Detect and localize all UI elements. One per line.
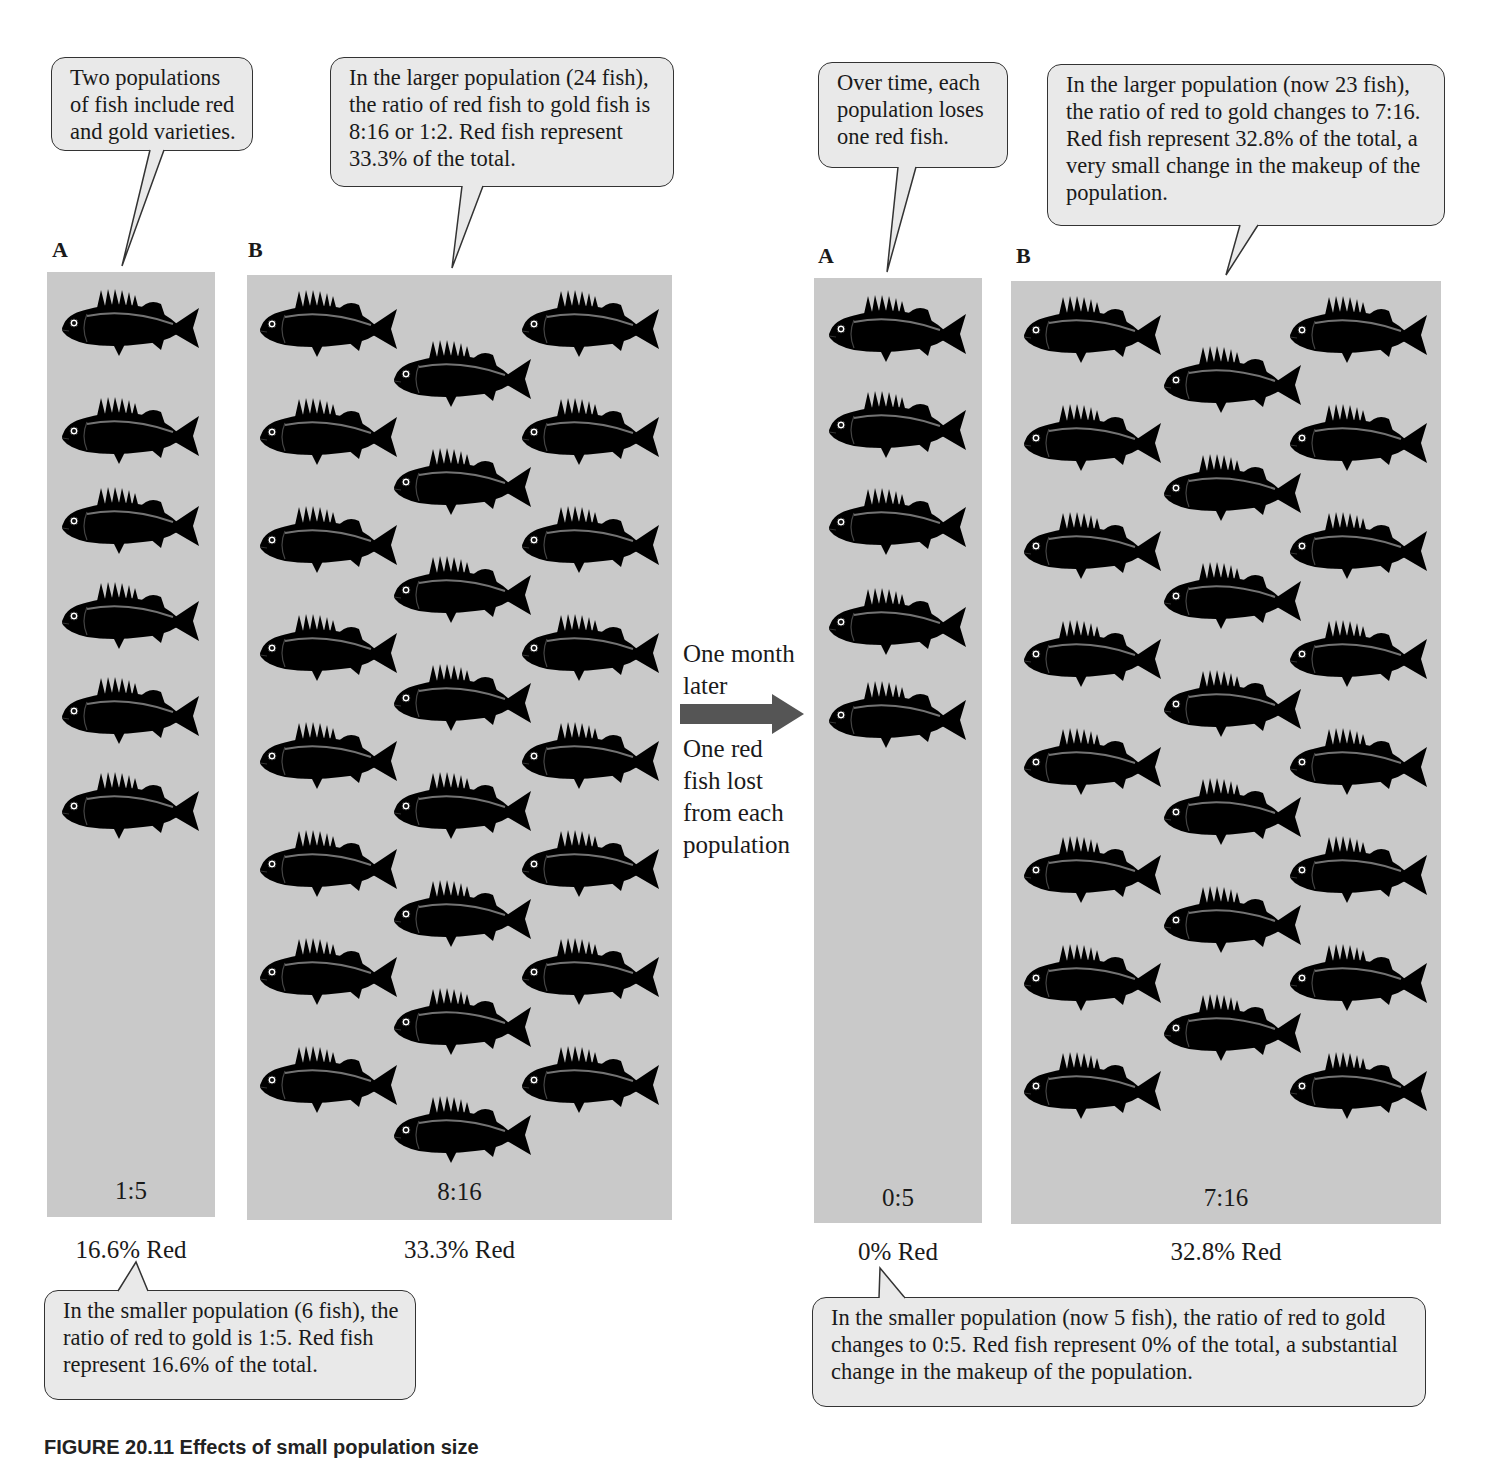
figure-caption: FIGURE 20.11 Effects of small population… <box>44 1436 479 1459</box>
